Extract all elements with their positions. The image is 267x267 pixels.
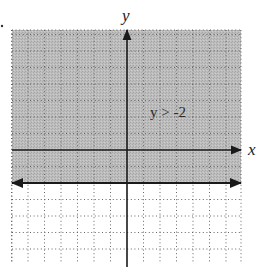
inequality-label: y > -2: [150, 104, 186, 120]
x-axis-label: x: [247, 140, 256, 159]
stray-dot: [1, 25, 3, 27]
y-axis-label: y: [120, 6, 130, 25]
inequality-graph: y x y > -2: [0, 0, 267, 267]
